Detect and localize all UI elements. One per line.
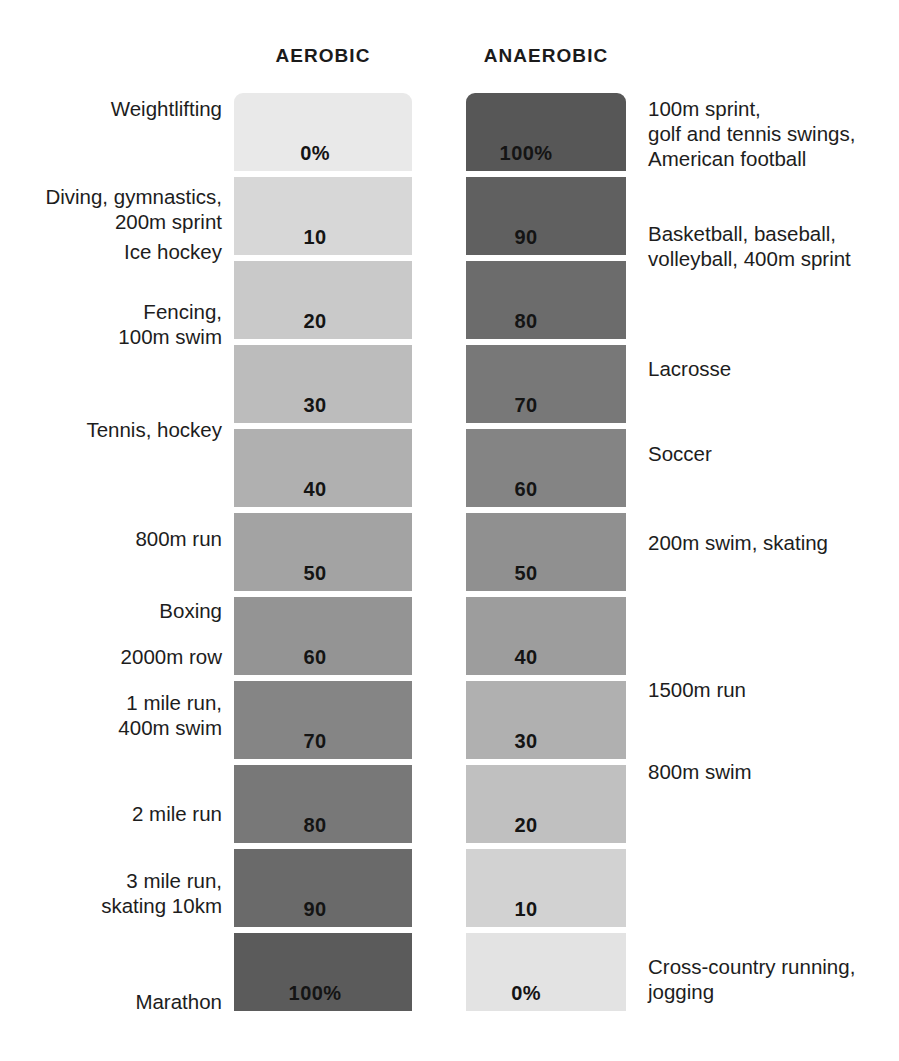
aerobic-sport-label: Fencing, 100m swim — [118, 299, 222, 349]
aerobic-sport-label: Boxing — [159, 598, 222, 623]
aerobic-bar: 0% — [234, 93, 412, 171]
anaerobic-bar-value: 100% — [446, 143, 606, 163]
anaerobic-sport-label: Soccer — [648, 441, 898, 466]
aerobic-bar: 80 — [234, 765, 412, 843]
aerobic-sport-label: 2000m row — [121, 644, 222, 669]
anaerobic-sport-label: 1500m run — [648, 677, 898, 702]
anaerobic-bar: 70 — [466, 345, 626, 423]
aerobic-sport-label: Ice hockey — [124, 239, 222, 264]
aerobic-bar-value: 0% — [226, 143, 404, 163]
aerobic-bar: 70 — [234, 681, 412, 759]
aerobic-sport-label: Weightlifting — [111, 96, 222, 121]
anaerobic-bar: 60 — [466, 429, 626, 507]
anaerobic-bar-value: 80 — [446, 311, 606, 331]
anaerobic-bar-value: 50 — [446, 563, 606, 583]
anaerobic-bar: 90 — [466, 177, 626, 255]
aerobic-sport-label: 2 mile run — [132, 801, 222, 826]
aerobic-bar-value: 60 — [226, 647, 404, 667]
anaerobic-bar-value: 20 — [446, 815, 606, 835]
aerobic-sport-label: 3 mile run, skating 10km — [101, 868, 222, 918]
anaerobic-bar-value: 0% — [446, 983, 606, 1003]
aerobic-bar: 10 — [234, 177, 412, 255]
anaerobic-bar: 80 — [466, 261, 626, 339]
aerobic-bar: 30 — [234, 345, 412, 423]
aerobic-bar: 50 — [234, 513, 412, 591]
chart-area: 0%100%Weightlifting100m sprint, golf and… — [0, 0, 899, 1061]
anaerobic-bar-value: 70 — [446, 395, 606, 415]
aerobic-bar-value: 30 — [226, 395, 404, 415]
aerobic-bar-value: 10 — [226, 227, 404, 247]
aerobic-sport-label: 800m run — [135, 526, 222, 551]
aerobic-bar-value: 90 — [226, 899, 404, 919]
aerobic-sport-label: 1 mile run, 400m swim — [118, 690, 222, 740]
aerobic-sport-label: Diving, gymnastics, 200m sprint — [45, 184, 222, 234]
anaerobic-bar-value: 40 — [446, 647, 606, 667]
anaerobic-sport-label: Cross-country running, jogging — [648, 954, 898, 1004]
aerobic-sport-label: Marathon — [135, 989, 222, 1014]
aerobic-bar-value: 50 — [226, 563, 404, 583]
aerobic-bar-value: 80 — [226, 815, 404, 835]
aerobic-anaerobic-sport-chart: AEROBIC ANAEROBIC 0%100%Weightlifting100… — [0, 0, 899, 1061]
anaerobic-bar: 100% — [466, 93, 626, 171]
anaerobic-sport-label: Lacrosse — [648, 356, 898, 381]
aerobic-bar-value: 100% — [226, 983, 404, 1003]
anaerobic-sport-label: 200m swim, skating — [648, 530, 898, 555]
anaerobic-bar-value: 10 — [446, 899, 606, 919]
anaerobic-bar-value: 90 — [446, 227, 606, 247]
aerobic-bar: 20 — [234, 261, 412, 339]
aerobic-bar: 60 — [234, 597, 412, 675]
aerobic-bar-value: 20 — [226, 311, 404, 331]
anaerobic-bar: 10 — [466, 849, 626, 927]
anaerobic-bar-value: 30 — [446, 731, 606, 751]
anaerobic-sport-label: 100m sprint, golf and tennis swings, Ame… — [648, 96, 898, 171]
anaerobic-bar: 20 — [466, 765, 626, 843]
aerobic-bar: 40 — [234, 429, 412, 507]
aerobic-bar-value: 70 — [226, 731, 404, 751]
aerobic-bar: 90 — [234, 849, 412, 927]
aerobic-bar: 100% — [234, 933, 412, 1011]
anaerobic-bar: 30 — [466, 681, 626, 759]
anaerobic-bar: 50 — [466, 513, 626, 591]
anaerobic-sport-label: 800m swim — [648, 759, 898, 784]
anaerobic-bar: 0% — [466, 933, 626, 1011]
anaerobic-bar: 40 — [466, 597, 626, 675]
anaerobic-bar-value: 60 — [446, 479, 606, 499]
aerobic-bar-value: 40 — [226, 479, 404, 499]
